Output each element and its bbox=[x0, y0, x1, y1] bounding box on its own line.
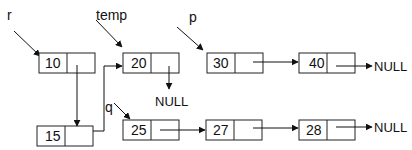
linked-list-diagram: r temp p q 10 15 20 30 40 25 bbox=[0, 0, 412, 150]
null-label-40: NULL bbox=[374, 59, 407, 74]
pointer-label-q: q bbox=[105, 99, 113, 115]
null-label-28: NULL bbox=[374, 120, 407, 135]
node-15: 15 bbox=[37, 126, 93, 146]
node-value: 27 bbox=[213, 122, 229, 138]
pointer-label-r: r bbox=[7, 7, 12, 23]
node-27: 27 bbox=[206, 120, 262, 140]
pointer-label-temp: temp bbox=[96, 7, 127, 23]
pointer-arrow-r bbox=[14, 31, 40, 56]
node-28: 28 bbox=[299, 120, 355, 140]
node-value: 15 bbox=[45, 128, 61, 144]
pointer-label-p: p bbox=[189, 9, 197, 25]
node-value: 40 bbox=[309, 55, 325, 71]
node-value: 28 bbox=[306, 122, 322, 138]
node-20: 20 bbox=[123, 53, 179, 73]
pointer-arrow-q bbox=[114, 103, 130, 119]
node-value: 10 bbox=[45, 55, 61, 71]
node-value: 25 bbox=[131, 122, 147, 138]
pointer-arrow-temp bbox=[96, 20, 122, 47]
null-label-20: NULL bbox=[155, 94, 188, 109]
node-value: 30 bbox=[213, 55, 229, 71]
node-40: 40 bbox=[299, 53, 355, 73]
node-10: 10 bbox=[39, 53, 95, 73]
node-value: 20 bbox=[131, 55, 147, 71]
pointer-arrow-p bbox=[177, 27, 203, 50]
node-30: 30 bbox=[207, 53, 263, 73]
